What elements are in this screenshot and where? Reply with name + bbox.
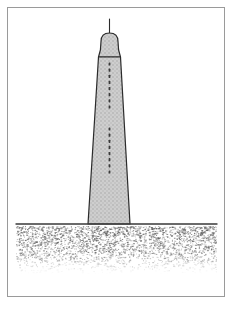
figure-root: Tower on stippled ground	[0, 0, 234, 311]
ground-fade	[16, 226, 217, 274]
window-dot	[109, 105, 111, 108]
window-dot	[109, 164, 111, 167]
window-dot	[109, 140, 111, 143]
window-dot	[109, 146, 111, 149]
window-dot	[109, 87, 111, 90]
window-dot	[109, 127, 111, 130]
window-dot	[109, 99, 111, 102]
tower-group	[88, 19, 130, 224]
window-dot	[109, 93, 111, 96]
ground-group	[16, 224, 219, 275]
window-dot	[109, 152, 111, 155]
window-dot	[109, 75, 111, 78]
window-dot	[109, 170, 111, 173]
window-dot	[109, 134, 111, 137]
window-dot	[109, 62, 111, 65]
tower-illustration	[0, 0, 234, 311]
window-dot	[109, 81, 111, 84]
tower-cap	[99, 33, 121, 57]
window-dot	[109, 69, 111, 72]
window-dot	[109, 158, 111, 161]
